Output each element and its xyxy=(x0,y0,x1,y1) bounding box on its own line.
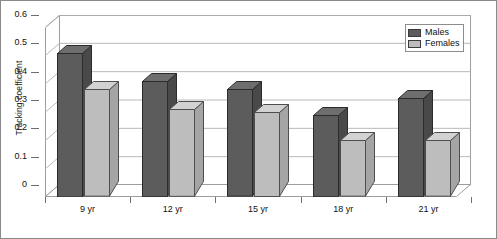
legend-swatch-females xyxy=(408,40,421,48)
bar-shape xyxy=(84,81,119,197)
y-axis-tick-mark xyxy=(31,72,39,73)
bar-front-face xyxy=(255,113,280,197)
bar-females-12-yr xyxy=(169,97,195,197)
x-axis-tick-label: 12 yr xyxy=(143,204,203,214)
bar-females-18-yr xyxy=(340,128,366,197)
bar-shape xyxy=(425,132,460,197)
bar-front-face xyxy=(340,141,365,197)
bar-males-18-yr xyxy=(313,103,339,197)
y-axis-tick-mark xyxy=(31,157,39,158)
bar-shape xyxy=(254,104,289,197)
bar-chart: Tracking coefficient 0.60.50.40.30.20.10… xyxy=(0,0,497,239)
x-axis-tick-label: 18 yr xyxy=(313,204,373,214)
y-axis-tick-mark xyxy=(31,100,39,101)
y-axis-tick-label: 0.1 xyxy=(14,151,27,161)
bar-front-face xyxy=(58,53,83,197)
bar-side-face xyxy=(110,82,119,197)
y-axis-tick-labels: 0.60.50.40.30.20.10 xyxy=(1,1,41,239)
bar-side-face xyxy=(280,105,289,197)
bar-shape xyxy=(169,101,204,197)
y-axis-tick-label: 0.6 xyxy=(14,9,27,19)
bar-males-12-yr xyxy=(142,69,168,197)
x-axis-tick-mark xyxy=(45,197,46,203)
bar-front-face xyxy=(228,90,253,197)
bar-females-9-yr xyxy=(84,77,110,197)
bar-males-21-yr xyxy=(398,86,424,197)
bar-side-face xyxy=(365,133,374,197)
legend-label: Females xyxy=(425,39,460,48)
bar-front-face xyxy=(398,98,423,196)
y-axis-tick-label: 0.2 xyxy=(14,122,27,132)
x-axis-tick-mark xyxy=(130,197,131,203)
x-axis-tick-label: 9 yr xyxy=(58,204,118,214)
y-axis-tick-mark xyxy=(31,43,39,44)
chart-legend: MalesFemales xyxy=(405,24,464,52)
y-axis-tick-label: 0.5 xyxy=(14,37,27,47)
x-axis-tick-label: 15 yr xyxy=(228,204,288,214)
bar-males-9-yr xyxy=(57,41,83,198)
bar-front-face xyxy=(143,81,168,196)
bar-females-15-yr xyxy=(254,100,280,197)
x-axis-tick-mark xyxy=(386,197,387,203)
y-axis-tick-mark xyxy=(31,15,39,16)
legend-label: Males xyxy=(425,28,449,37)
bar-front-face xyxy=(313,115,338,196)
legend-item-males: Males xyxy=(408,27,460,38)
x-axis: 9 yr12 yr15 yr18 yr21 yr xyxy=(45,197,471,227)
bar-front-face xyxy=(85,90,110,197)
x-axis-tick-mark xyxy=(301,197,302,203)
legend-item-females: Females xyxy=(408,38,460,49)
bar-females-21-yr xyxy=(425,128,451,197)
bar-males-15-yr xyxy=(227,77,253,197)
x-axis-tick-label: 21 yr xyxy=(398,204,458,214)
y-axis-tick-mark xyxy=(31,128,39,129)
bar-side-face xyxy=(450,133,459,197)
bar-shape xyxy=(340,132,375,197)
x-axis-tick-mark xyxy=(215,197,216,203)
y-axis-tick-label: 0.4 xyxy=(14,66,27,76)
bar-front-face xyxy=(170,110,195,197)
y-axis-tick-label: 0.3 xyxy=(14,94,27,104)
x-axis-tick-mark xyxy=(471,197,472,203)
bar-front-face xyxy=(425,141,450,197)
y-axis-tick-label: 0 xyxy=(22,179,27,189)
bar-side-face xyxy=(195,102,204,197)
legend-swatch-males xyxy=(408,29,421,37)
y-axis-tick-mark xyxy=(31,185,39,186)
